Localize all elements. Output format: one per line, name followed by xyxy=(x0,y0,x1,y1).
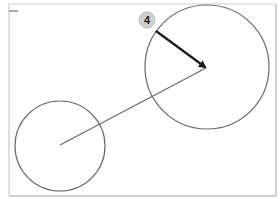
callout-badge-label: 4 xyxy=(144,14,151,26)
callout-badge: 4 xyxy=(139,12,155,28)
large-circle xyxy=(145,5,269,129)
diagram-canvas: 4 xyxy=(0,0,280,199)
callout-arrow xyxy=(156,31,205,67)
small-circle xyxy=(15,101,105,191)
